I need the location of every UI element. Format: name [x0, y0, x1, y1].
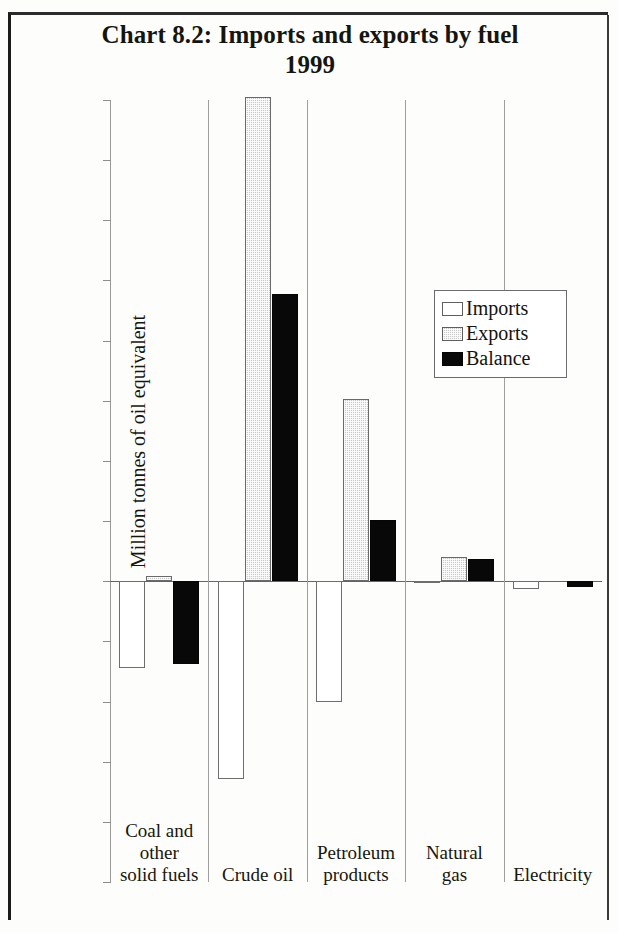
category-label-line: gas — [405, 864, 503, 886]
bar-balance — [468, 559, 494, 581]
category-label: Crude oil — [208, 864, 306, 886]
chart-title: Chart 8.2: Imports and exports by fuel 1… — [30, 20, 590, 80]
legend-swatch-imports — [442, 302, 463, 316]
bar-imports — [513, 581, 539, 589]
category-label: Coal andothersolid fuels — [110, 820, 208, 886]
plot-area: 80706050403020100-10-20-30-40-50 Million… — [110, 100, 602, 882]
chart-title-main: Chart 8.2: Imports and exports by fuel — [102, 21, 519, 48]
category-label-line: Electricity — [504, 864, 602, 886]
category-label: Electricity — [504, 864, 602, 886]
legend-label: Balance — [466, 347, 530, 370]
legend-label: Exports — [466, 322, 528, 345]
category-label: Naturalgas — [405, 842, 503, 886]
bar-exports — [146, 576, 172, 581]
category-label-line: products — [307, 864, 405, 886]
bar-imports — [414, 581, 440, 583]
chart-legend: ImportsExportsBalance — [434, 290, 567, 378]
bar-exports — [343, 399, 369, 581]
bar-exports — [245, 97, 271, 581]
bar-imports — [316, 581, 342, 702]
legend-swatch-exports — [442, 327, 463, 341]
category-label-line: other — [110, 842, 208, 864]
category-label-line: Natural — [405, 842, 503, 864]
bar-group — [307, 100, 405, 882]
legend-item-balance: Balance — [442, 346, 560, 371]
bar-group — [208, 100, 306, 882]
legend-swatch-balance — [442, 352, 463, 366]
y-axis-title: Million tonnes of oil equivalent — [127, 162, 150, 722]
chart-title-year: 1999 — [285, 51, 335, 78]
bar-balance — [272, 294, 298, 581]
legend-item-exports: Exports — [442, 321, 560, 346]
legend-label: Imports — [466, 297, 528, 320]
category-label: Petroleumproducts — [307, 842, 405, 886]
bar-exports — [441, 557, 467, 581]
chart-page: Chart 8.2: Imports and exports by fuel 1… — [0, 0, 618, 933]
bar-balance — [173, 581, 199, 663]
bar-group — [504, 100, 602, 882]
bar-balance — [370, 520, 396, 581]
category-label-line: Crude oil — [208, 864, 306, 886]
bar-group — [110, 100, 208, 882]
category-label-line: Petroleum — [307, 842, 405, 864]
bar-group — [405, 100, 503, 882]
bar-imports — [218, 581, 244, 778]
bar-balance — [567, 581, 593, 587]
category-label-line: solid fuels — [110, 864, 208, 886]
category-label-line: Coal and — [110, 820, 208, 842]
legend-item-imports: Imports — [442, 296, 560, 321]
